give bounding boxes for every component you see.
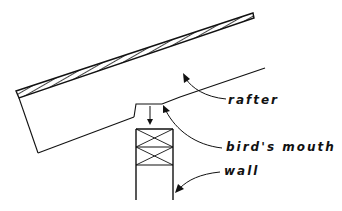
- load-arrow: [147, 106, 153, 125]
- diagram-canvas: rafter bird's mouth wall: [0, 0, 342, 211]
- roof-sheathing: [16, 13, 254, 98]
- drawing: [0, 0, 342, 211]
- leader-rafter: [183, 73, 226, 99]
- label-birds-mouth: bird's mouth: [226, 140, 336, 154]
- leader-wall: [175, 172, 220, 193]
- leader-birds-mouth: [163, 105, 222, 148]
- wall: [136, 129, 173, 200]
- label-wall: wall: [224, 164, 259, 178]
- label-rafter: rafter: [228, 93, 279, 107]
